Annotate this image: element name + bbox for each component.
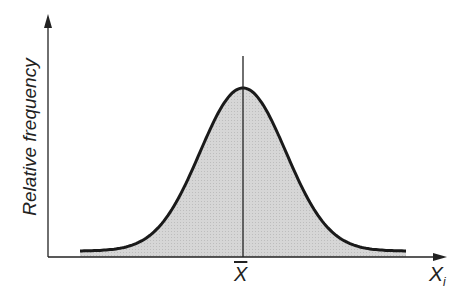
mean-label: X xyxy=(234,263,247,286)
y-axis-label: Relative frequency xyxy=(19,57,41,217)
x-variable: X xyxy=(429,262,443,285)
y-axis-arrow-icon xyxy=(44,14,52,28)
mean-symbol: X xyxy=(234,263,247,285)
x-subscript: i xyxy=(443,275,446,289)
x-axis-label: Xi xyxy=(429,262,446,289)
chart-canvas xyxy=(0,0,452,296)
x-axis-arrow-icon xyxy=(433,253,447,261)
